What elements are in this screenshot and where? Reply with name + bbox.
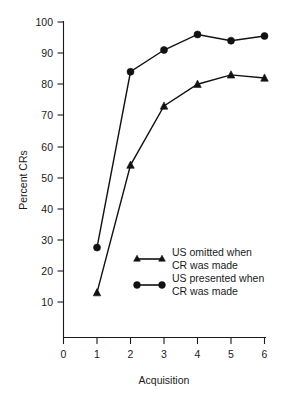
y-axis-title: Percent CRs [17, 150, 29, 210]
line-chart: 100 90 80 70 60 50 40 30 20 10 0 1 2 3 [0, 0, 287, 397]
x-axis-tick-labels: 0 1 2 3 4 5 6 [61, 348, 268, 360]
chart-page: 100 90 80 70 60 50 40 30 20 10 0 1 2 3 [0, 0, 287, 397]
series-us-presented [94, 31, 269, 251]
y-tick-label: 70 [41, 109, 53, 121]
y-tick-label: 80 [41, 78, 53, 90]
data-point-triangle [127, 161, 135, 168]
series-line-circle [97, 34, 265, 247]
y-tick-label: 20 [41, 265, 53, 277]
y-tick-label: 90 [41, 47, 53, 59]
chart-legend: US omitted when CR was made US presented… [134, 246, 265, 297]
data-point-circle [127, 68, 134, 75]
y-axis-tick-labels: 100 90 80 70 60 50 40 30 20 10 [35, 16, 53, 308]
circle-marker-icon [134, 282, 141, 289]
y-tick-label: 50 [41, 172, 53, 184]
x-tick-label: 1 [94, 348, 100, 360]
y-tick-label: 30 [41, 234, 53, 246]
x-tick-label: 2 [128, 348, 134, 360]
y-tick-label: 60 [41, 141, 53, 153]
x-tick-label: 5 [228, 348, 234, 360]
data-point-circle [194, 31, 201, 38]
data-point-circle [261, 33, 268, 40]
legend-label-omitted-line1: US omitted when [172, 246, 252, 258]
y-axis-ticks [58, 22, 64, 302]
x-tick-label: 3 [161, 348, 167, 360]
data-point-circle [94, 244, 101, 251]
y-tick-label: 10 [41, 296, 53, 308]
legend-label-presented-line2: CR was made [172, 285, 238, 297]
data-point-circle [161, 47, 168, 54]
legend-label-omitted-line2: CR was made [172, 259, 238, 271]
data-point-circle [228, 37, 235, 44]
x-tick-label: 6 [262, 348, 268, 360]
legend-entry-us-presented: US presented when CR was made [134, 272, 265, 297]
x-tick-label: 0 [61, 348, 67, 360]
legend-entry-us-omitted: US omitted when CR was made [134, 246, 252, 271]
x-tick-label: 4 [195, 348, 201, 360]
circle-marker-icon [159, 282, 166, 289]
legend-label-presented-line1: US presented when [172, 272, 264, 284]
data-point-triangle [93, 289, 101, 296]
x-axis-title: Acquisition [139, 374, 190, 386]
x-axis-ticks [64, 338, 265, 345]
series-markers-circle [94, 31, 269, 251]
y-tick-label: 40 [41, 203, 53, 215]
y-tick-label: 100 [35, 16, 53, 28]
data-point-triangle [160, 102, 168, 109]
